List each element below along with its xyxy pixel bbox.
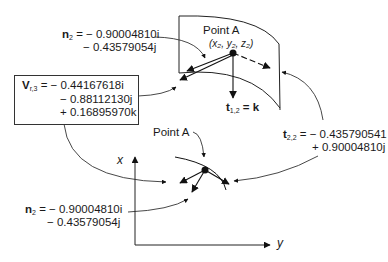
v-comp-k: + 0.16895970k [60,106,136,119]
point-a-bottom-label: Point A [153,126,189,139]
t12-value: = k [243,101,259,113]
y-axis-label: y [277,237,283,250]
t22-line1: = − 0.435790541 [300,128,387,140]
v-comp-j: − 0.88112130j [60,93,132,106]
t12-subscript: 1,2 [230,107,240,114]
t22-subscript: 2,2 [287,134,297,141]
v-symbol: V [22,79,30,91]
point-a-label: Point A [203,24,239,37]
point-a-coords: (x₂, y₂, z₂) [209,37,253,50]
x-axis-label: x [117,154,123,167]
n2-bottom-line1: = − 0.90004810i [39,203,122,215]
velocity-box: Vr,3 = − 0.44167618i − 0.88112130j + 0.1… [14,75,139,125]
n2-line1: = − 0.90004810i [76,28,159,40]
t12-label: t1,2 = k [226,101,259,117]
t22-line2: + 0.90004810j [312,141,385,154]
bottom-curve [175,157,226,190]
n2-subscript: 2 [69,34,73,41]
n2-top-line2: − 0.43579054j [83,41,156,54]
n2-bottom-subscript: 2 [32,209,36,216]
n2-symbol: n [62,28,69,40]
v-subscript: r,3 [30,85,38,92]
n2-bottom-symbol: n [25,203,32,215]
top-vectors [180,53,270,98]
v-comp-i: = − 0.44167618i [41,79,124,91]
n2-bottom-line2: − 0.43579054j [47,216,120,229]
